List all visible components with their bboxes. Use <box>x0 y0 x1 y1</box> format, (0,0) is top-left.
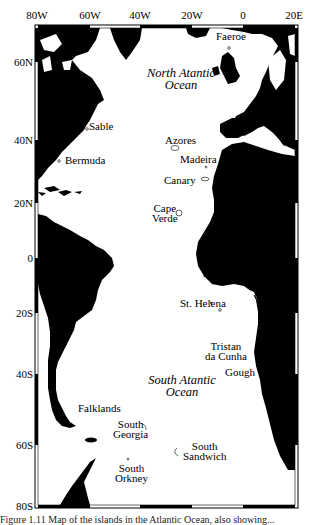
south-atlantic-ocean-label: South Atantic Ocean <box>127 374 237 398</box>
label-line: Verde <box>152 213 178 223</box>
label-madeira: Madeira <box>180 154 217 165</box>
north-atlantic-ocean-label: North Atantic Ocean <box>126 67 236 91</box>
label-canary: Canary <box>164 175 196 186</box>
label-ascension: Ascension <box>203 268 249 279</box>
label-south-orkney: South Orkney <box>115 463 148 483</box>
label-azores: Azores <box>165 135 196 146</box>
falklands-land <box>85 438 97 443</box>
label-faeroe: Faeroe <box>216 31 246 42</box>
ocean-label-line: Ocean <box>126 79 236 91</box>
label-line: Georgia <box>113 429 148 439</box>
greenland <box>110 28 142 60</box>
label-line: Sandwich <box>183 451 226 461</box>
label-line: da Cunha <box>205 351 247 361</box>
label-sable: Sable <box>89 121 113 132</box>
antarctica <box>60 458 96 505</box>
label-south-sandwich: South Sandwich <box>183 441 226 461</box>
label-bermuda: Bermuda <box>65 155 105 166</box>
label-south-georgia: South Georgia <box>113 419 148 439</box>
ocean-label-line: Ocean <box>127 386 237 398</box>
label-line: Orkney <box>115 473 148 483</box>
label-st-helena: St. Helena <box>180 298 226 309</box>
land-masses <box>38 28 295 508</box>
iceland <box>186 28 210 38</box>
label-tristan-da-cunha: Tristan da Cunha <box>205 341 247 361</box>
south-america <box>38 214 114 428</box>
figure-caption: Figure 1.11 Map of the islands in the At… <box>0 514 275 525</box>
label-falklands: Falklands <box>78 403 121 414</box>
label-gough: Gough <box>225 367 255 378</box>
label-cape-verde: Cape Verde <box>152 203 178 223</box>
